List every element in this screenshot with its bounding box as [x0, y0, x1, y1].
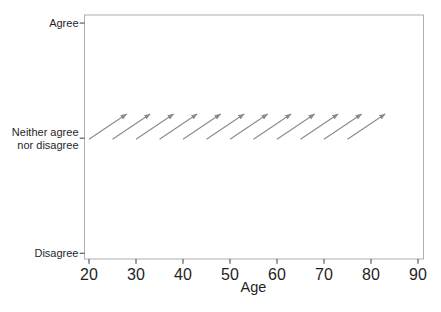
y-tick-label: nor disagree [17, 139, 78, 151]
y-tick-label: Disagree [34, 247, 78, 259]
x-axis-title: Age [241, 279, 267, 295]
x-tick-label: 50 [221, 266, 239, 283]
x-tick-label: 80 [362, 266, 380, 283]
y-tick-label: Neither agree [12, 126, 79, 138]
x-tick-label: 40 [174, 266, 192, 283]
quiver-chart: 2030405060708090AgreeNeither agreenor di… [0, 0, 441, 312]
x-tick-label: 30 [127, 266, 145, 283]
y-tick-label: Agree [49, 17, 78, 29]
x-tick-label: 70 [315, 266, 333, 283]
x-tick-label: 90 [409, 266, 427, 283]
x-tick-label: 60 [268, 266, 286, 283]
chart-canvas: 2030405060708090AgreeNeither agreenor di… [0, 0, 441, 312]
x-tick-label: 20 [80, 266, 98, 283]
